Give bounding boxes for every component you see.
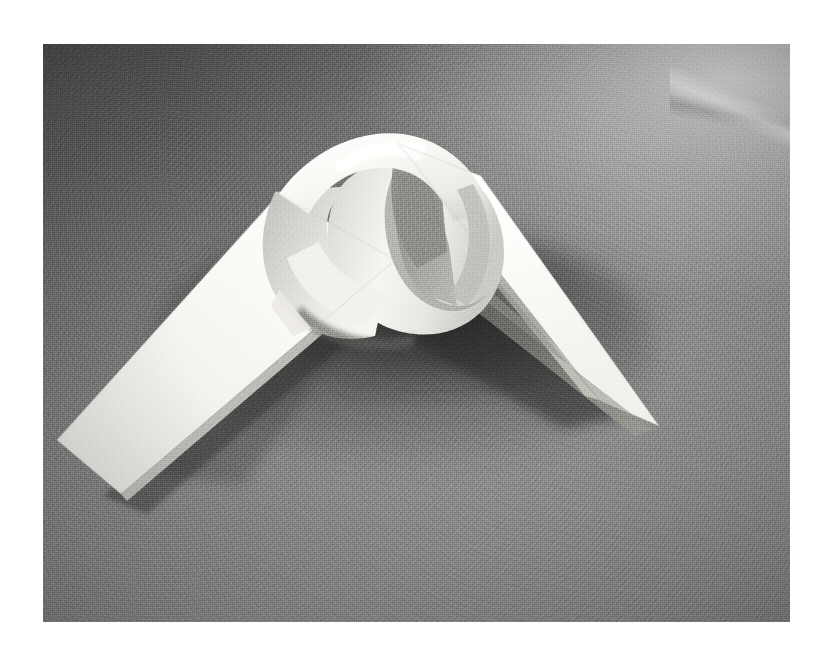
- page-root: [0, 0, 824, 661]
- knot-loop-group: [263, 133, 504, 350]
- paper-knot-illustration: [43, 44, 790, 622]
- photograph: [43, 44, 790, 622]
